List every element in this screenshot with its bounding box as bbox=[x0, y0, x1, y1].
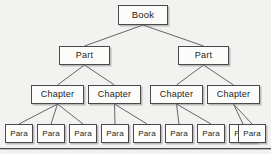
node-para-9: Para bbox=[238, 124, 266, 143]
edge-chapter-2-to-para-4 bbox=[115, 104, 116, 124]
edge-book-to-part-2 bbox=[143, 25, 204, 46]
node-label: Para bbox=[74, 130, 92, 138]
node-chapter-1: Chapter bbox=[31, 85, 84, 104]
node-label: Para bbox=[170, 130, 188, 138]
edge-chapter-4-to-para-8 bbox=[234, 104, 244, 124]
node-label: Para bbox=[202, 130, 220, 138]
node-part-1: Part bbox=[59, 46, 110, 65]
node-chapter-3: Chapter bbox=[150, 85, 203, 104]
node-para-2: Para bbox=[37, 124, 65, 143]
node-label: Para bbox=[10, 130, 28, 138]
edge-part-2-to-chapter-3 bbox=[177, 65, 204, 85]
node-label: Para bbox=[106, 130, 124, 138]
node-label: Chapter bbox=[217, 90, 250, 99]
node-label: Chapter bbox=[98, 90, 131, 99]
edge-book-to-part-1 bbox=[85, 25, 144, 46]
edge-part-2-to-chapter-4 bbox=[204, 65, 234, 85]
node-label: Chapter bbox=[41, 90, 74, 99]
node-para-1: Para bbox=[5, 124, 33, 143]
edge-part-1-to-chapter-1 bbox=[58, 65, 85, 85]
tree-diagram: BookPartPartChapterChapterChapterChapter… bbox=[0, 0, 271, 154]
node-label: Para bbox=[42, 130, 60, 138]
node-para-4: Para bbox=[101, 124, 129, 143]
node-chapter-4: Chapter bbox=[207, 85, 260, 104]
node-label: Chapter bbox=[160, 90, 193, 99]
edge-chapter-1-to-para-3 bbox=[58, 104, 84, 124]
node-para-3: Para bbox=[69, 124, 97, 143]
node-label: Para bbox=[243, 130, 261, 138]
edge-chapter-4-to-para-9 bbox=[234, 104, 253, 124]
node-para-6: Para bbox=[165, 124, 193, 143]
node-label: Para bbox=[138, 130, 156, 138]
edge-chapter-2-to-para-5 bbox=[115, 104, 148, 124]
node-label: Part bbox=[195, 51, 212, 60]
edge-chapter-3-to-para-7 bbox=[177, 104, 212, 124]
node-label: Book bbox=[132, 10, 154, 20]
node-label: Part bbox=[76, 51, 93, 60]
node-para-7: Para bbox=[197, 124, 225, 143]
edge-chapter-3-to-para-6 bbox=[177, 104, 180, 124]
baseline-rule bbox=[0, 148, 271, 150]
edge-part-1-to-chapter-2 bbox=[85, 65, 115, 85]
node-part-2: Part bbox=[178, 46, 229, 65]
node-chapter-2: Chapter bbox=[88, 85, 141, 104]
node-book: Book bbox=[118, 5, 168, 25]
node-para-5: Para bbox=[133, 124, 161, 143]
